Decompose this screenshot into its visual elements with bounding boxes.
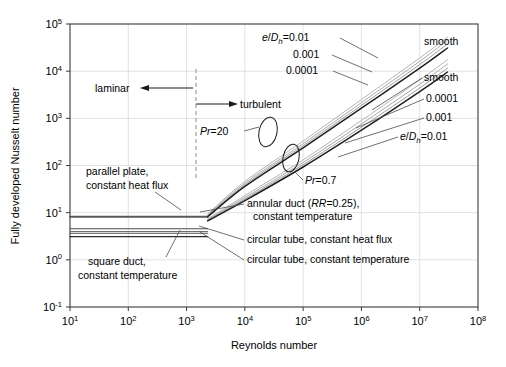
nusselt-reynolds-chart: 101102103104105106107108 10-110010110210… [0,0,506,367]
annotation-turbulent: turbulent [240,98,281,110]
annotation-circular-temp: circular tube, constant temperature [247,253,409,265]
figure-container: 101102103104105106107108 10-110010110210… [0,0,506,367]
annotation-circular-flux: circular tube, constant heat flux [247,233,393,245]
annotation-pr20: Pr=20 [200,125,228,137]
annotation-edh-top-2: 0.001 [293,48,319,60]
annotation-annular-duct-line1: annular duct (RR=0.25), [247,197,359,209]
annotation-square-duct-line2: constant temperature [78,269,177,281]
annotation-edh-bot-3: 0.0001 [426,92,458,104]
y-axis-title: Fully developed Nusselt number [9,87,21,244]
annotation-edh-bot-2: 0.001 [426,111,452,123]
x-axis-title: Reynolds number [231,339,318,351]
annotation-laminar: laminar [95,82,130,94]
annotation-pr07: Pr=0.7 [305,174,336,186]
annotation-smooth-mid: smooth [424,71,459,83]
annotation-edh-top-3: 0.0001 [286,64,318,76]
annotation-annular-duct-line2: constant temperature [253,210,352,222]
annotation-smooth-top: smooth [424,35,459,47]
annotation-parallel-plate-line1: parallel plate, [86,165,148,177]
annotation-square-duct-line1: square duct, [88,255,146,267]
chart-background [0,0,506,367]
annotation-parallel-plate-line2: constant heat flux [86,179,169,191]
